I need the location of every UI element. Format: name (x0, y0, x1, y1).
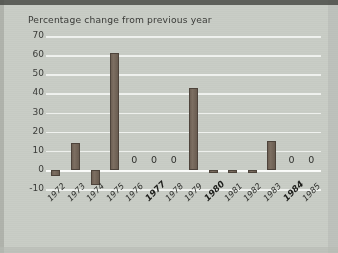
y-axis-tick-label: 30 (18, 107, 44, 117)
bar-series (46, 36, 321, 189)
y-axis-tick-label: 40 (18, 87, 44, 97)
scan-edge-right (328, 0, 338, 253)
bar (248, 170, 257, 173)
y-axis-tick-label: 10 (18, 145, 44, 155)
chart-title: Percentage change from previous year (28, 14, 212, 25)
chart-page: Percentage change from previous year 706… (0, 0, 338, 253)
y-axis-tick-label: 50 (18, 68, 44, 78)
y-axis-tick-label: -10 (18, 183, 44, 193)
zero-value-label: 0 (284, 154, 300, 165)
bar (110, 53, 119, 170)
y-axis-tick-label: 60 (18, 49, 44, 59)
zero-value-label: 0 (146, 154, 162, 165)
scan-edge-top (0, 0, 338, 5)
plot-area: 00000 (46, 36, 321, 189)
zero-value-label: 0 (166, 154, 182, 165)
y-axis-tick-label: 0 (18, 164, 44, 174)
bar (189, 88, 198, 170)
bar (51, 170, 60, 176)
zero-value-label: 0 (126, 154, 142, 165)
y-axis-tick-labels: 706050403020100-10 (14, 36, 44, 189)
bar (71, 143, 80, 170)
bar (267, 141, 276, 170)
x-axis-tick-labels: 1972197319741975197619771978197919801981… (46, 190, 321, 250)
scan-edge-left (0, 0, 4, 253)
zero-value-label: 0 (303, 154, 319, 165)
y-axis-tick-label: 20 (18, 126, 44, 136)
y-axis-tick-label: 70 (18, 30, 44, 40)
bar (228, 170, 237, 173)
bar (209, 170, 218, 173)
